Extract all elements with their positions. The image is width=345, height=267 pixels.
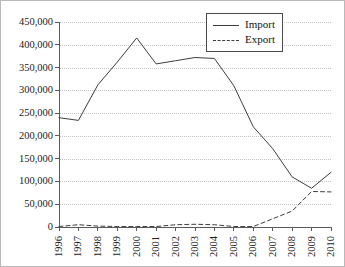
legend-label: Export (245, 34, 275, 45)
x-axis-tick-label: 2009 (306, 236, 317, 257)
y-axis-tick-label: 0 (48, 222, 53, 233)
y-axis-tick-label: 250,000 (19, 108, 53, 119)
x-axis-tick-label: 2008 (287, 236, 298, 257)
x-axis-tick-label: 2004 (209, 236, 220, 257)
x-axis-tick-label: 2010 (326, 236, 337, 257)
y-axis-tick-label: 150,000 (19, 153, 53, 164)
x-axis-tick-label: 2003 (190, 236, 201, 257)
x-axis-tick-label: 2005 (229, 236, 240, 257)
legend-item-import[interactable]: Import (213, 17, 275, 32)
y-axis-tick-label: 400,000 (19, 40, 53, 51)
x-axis-tick-label: 2001 (151, 236, 162, 257)
x-axis-tick-label: 2007 (267, 236, 278, 257)
y-axis-tick-label: 200,000 (19, 131, 53, 142)
x-axis-tick-label: 1999 (112, 236, 123, 257)
data-series-layer (59, 22, 331, 227)
y-axis-tick-label: 350,000 (19, 62, 53, 73)
y-axis-tick-label: 50,000 (24, 199, 53, 210)
x-axis-tick-label: 2006 (248, 236, 259, 257)
plot-area: 050,000100,000150,000200,000250,000300,0… (59, 22, 331, 227)
x-axis-tick-label: 1996 (54, 236, 65, 257)
legend-label: Import (245, 19, 275, 30)
legend-swatch-export-icon (213, 36, 239, 44)
y-axis-tick-label: 300,000 (19, 85, 53, 96)
chart-figure: 050,000100,000150,000200,000250,000300,0… (0, 0, 345, 267)
x-axis-tick-label: 2000 (131, 236, 142, 257)
series-line-import (59, 38, 331, 188)
x-axis-tick-label: 2002 (170, 236, 181, 257)
legend-item-export[interactable]: Export (213, 32, 275, 47)
legend-swatch-import-icon (213, 21, 239, 29)
x-axis-tick-label: 1998 (93, 236, 104, 257)
y-axis-tick-label: 100,000 (19, 176, 53, 187)
series-line-export (59, 191, 331, 226)
y-axis-tick-label: 450,000 (19, 17, 53, 28)
chart-legend: ImportExport (206, 13, 283, 52)
x-axis-tick-label: 1997 (73, 236, 84, 257)
series-lines (59, 22, 331, 227)
